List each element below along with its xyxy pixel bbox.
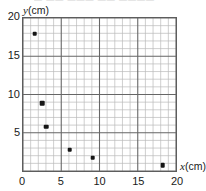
data-points-layer [23,18,176,171]
x-axis-title: x(cm) [180,160,206,172]
y-axis-title: y(cm) [23,4,49,16]
data-point [40,101,45,106]
data-point [160,163,165,168]
data-point [44,124,49,129]
x-tick-label: 15 [132,175,144,187]
plot-area [22,17,177,172]
scatter-plot-figure: — —— ——— —— ———— 5101520 05101520 y(cm) … [0,0,206,191]
x-tick-label: 5 [58,175,64,187]
y-tick-label: 20 [0,10,20,22]
data-point [32,31,37,36]
x-tick-label: 0 [19,175,25,187]
y-tick-label: 5 [0,126,20,138]
y-tick-label: 15 [0,49,20,61]
x-tick-label: 10 [93,175,105,187]
data-point [67,147,72,152]
y-axis-unit: (cm) [28,4,49,16]
y-tick-label: 10 [0,88,20,100]
x-tick-label: 20 [171,175,183,187]
x-axis-unit: (cm) [185,160,206,172]
clipped-title-remnant: — —— ——— —— ———— [34,0,174,3]
data-point [90,155,95,160]
